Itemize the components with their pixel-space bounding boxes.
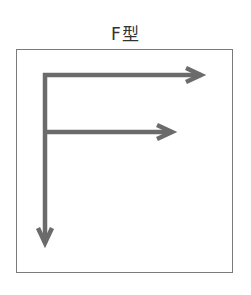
f-pattern-arrows [0,0,251,295]
